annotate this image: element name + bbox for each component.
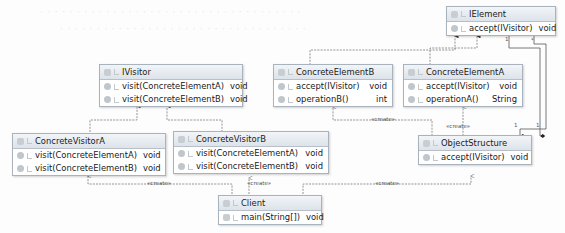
class-header: ConcreteElementB — [274, 65, 392, 80]
method-icon — [278, 83, 285, 90]
class-concrete-visitor-b[interactable]: ConcreteVisitorB visit(ConcreteElementA)… — [173, 131, 329, 174]
class-object-structure[interactable]: ObjectStructure accept(IVisitor)void — [418, 135, 532, 165]
static-method-icon — [223, 214, 230, 221]
public-icon — [433, 155, 438, 161]
method-icon — [451, 25, 458, 32]
multiplicity-label: * — [531, 37, 534, 43]
method-row[interactable]: operationA()String — [404, 93, 522, 106]
class-icon — [278, 69, 285, 76]
multiplicity-label: 1 — [505, 36, 509, 42]
method-icon — [278, 96, 285, 103]
method-row[interactable]: visit(ConcreteElementA)void — [100, 80, 242, 93]
method-row[interactable]: visit(ConcreteElementA)void — [13, 149, 165, 162]
class-header: ObjectStructure — [419, 136, 531, 151]
public-icon — [233, 215, 238, 221]
class-icon — [17, 138, 24, 145]
method-row[interactable]: main(String[])void — [219, 211, 321, 224]
method-icon — [178, 150, 185, 157]
method-icon — [104, 83, 111, 90]
method-icon — [423, 154, 430, 161]
method-icon — [408, 83, 415, 90]
visibility-icon — [288, 69, 293, 75]
interface-icon — [451, 11, 458, 18]
create-label: «create» — [247, 180, 271, 186]
public-icon — [418, 97, 423, 103]
visibility-icon — [27, 138, 32, 144]
class-concrete-element-a[interactable]: ConcreteElementA accept(IVisitor)void op… — [403, 64, 523, 107]
visibility-icon — [418, 69, 423, 75]
public-icon — [27, 153, 32, 159]
public-icon — [288, 97, 293, 103]
visibility-icon — [188, 136, 193, 142]
create-label: «create» — [147, 180, 171, 186]
class-concrete-element-b[interactable]: ConcreteElementB accept(IVisitor)void op… — [273, 64, 393, 107]
visibility-icon — [461, 11, 466, 17]
class-client[interactable]: Client main(String[])void — [218, 195, 322, 225]
method-icon — [408, 96, 415, 103]
visibility-icon — [433, 140, 438, 146]
method-row[interactable]: accept(IVisitor)void — [404, 80, 522, 93]
public-icon — [288, 84, 293, 90]
class-icon — [423, 140, 430, 147]
interface-icon — [104, 69, 111, 76]
class-icon — [178, 136, 185, 143]
method-row[interactable]: visit(ConcreteElementB)void — [174, 160, 328, 173]
method-row[interactable]: visit(ConcreteElementB)void — [100, 93, 242, 106]
public-icon — [114, 84, 119, 90]
class-header: ConcreteElementA — [404, 65, 522, 80]
create-label: «create» — [371, 116, 395, 122]
method-row[interactable]: accept(IVisitor)void — [274, 80, 392, 93]
public-icon — [461, 26, 466, 32]
class-icon — [223, 200, 230, 207]
public-icon — [114, 97, 119, 103]
public-icon — [188, 164, 193, 170]
method-row[interactable]: accept(IVisitor)void — [419, 151, 531, 164]
multiplicity-label: 1 — [514, 122, 518, 128]
public-icon — [188, 151, 193, 157]
multiplicity-label: 1 — [536, 122, 540, 128]
method-row[interactable]: accept(IVisitor)void — [447, 22, 555, 35]
class-header: Client — [219, 196, 321, 211]
method-row[interactable]: visit(ConcreteElementB)void — [13, 162, 165, 175]
class-icon — [408, 69, 415, 76]
method-row[interactable]: operationB()int — [274, 93, 392, 106]
class-ivisitor[interactable]: IVisitor visit(ConcreteElementA)void vis… — [99, 64, 243, 107]
create-label: «create» — [446, 123, 470, 129]
class-header: ConcreteVisitorB — [174, 132, 328, 147]
method-icon — [17, 165, 24, 172]
class-header: ConcreteVisitorA — [13, 134, 165, 149]
class-concrete-visitor-a[interactable]: ConcreteVisitorA visit(ConcreteElementA)… — [12, 133, 166, 176]
public-icon — [418, 84, 423, 90]
class-header: IElement — [447, 7, 555, 22]
method-row[interactable]: visit(ConcreteElementA)void — [174, 147, 328, 160]
create-label: «create» — [375, 180, 399, 186]
method-icon — [17, 152, 24, 159]
class-header: IVisitor — [100, 65, 242, 80]
visibility-icon — [114, 69, 119, 75]
visibility-icon — [233, 200, 238, 206]
method-icon — [104, 96, 111, 103]
method-icon — [178, 163, 185, 170]
public-icon — [27, 166, 32, 172]
class-ielement[interactable]: IElement accept(IVisitor)void — [446, 6, 556, 36]
